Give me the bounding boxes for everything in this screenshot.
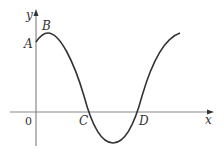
y-axis-arrow-icon bbox=[34, 9, 39, 16]
origin-label: 0 bbox=[25, 115, 32, 128]
point-c-label: C bbox=[79, 114, 88, 128]
point-d-label: D bbox=[138, 114, 149, 128]
x-axis-label: x bbox=[205, 113, 212, 127]
point-b-label: B bbox=[41, 19, 51, 33]
point-a-label: A bbox=[23, 37, 33, 51]
y-axis-label: y bbox=[25, 8, 33, 22]
sinusoid-curve bbox=[36, 33, 180, 143]
graph-canvas: y x 0 A B C D bbox=[0, 0, 224, 150]
